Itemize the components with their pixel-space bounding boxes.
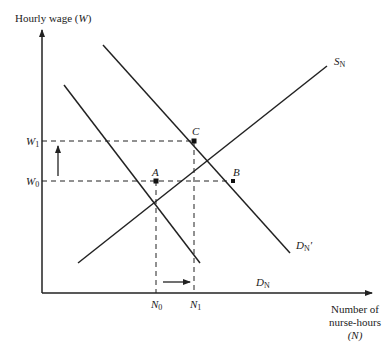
point-a-label: A <box>152 167 159 178</box>
point-a <box>154 179 159 184</box>
y-axis-label: Hourly wage (W) <box>15 13 91 24</box>
point-c-label: C <box>192 126 199 137</box>
w1-tick-label: W1 <box>26 136 39 149</box>
supply-curve-sn <box>78 66 327 263</box>
sn-curve-label: SN <box>334 56 345 69</box>
point-b <box>231 179 235 183</box>
point-c <box>192 139 197 144</box>
dn-curve-label: DN <box>256 277 270 290</box>
x-axis-label: Number of nurse-hours (N) <box>322 303 388 342</box>
dn-prime-curve-label: DN′ <box>296 240 312 253</box>
n1-tick-label: N1 <box>190 299 201 312</box>
demand-curve-dn <box>64 85 200 263</box>
n0-tick-label: N0 <box>151 299 162 312</box>
w0-tick-label: W0 <box>26 176 39 189</box>
point-b-label: B <box>233 167 240 178</box>
